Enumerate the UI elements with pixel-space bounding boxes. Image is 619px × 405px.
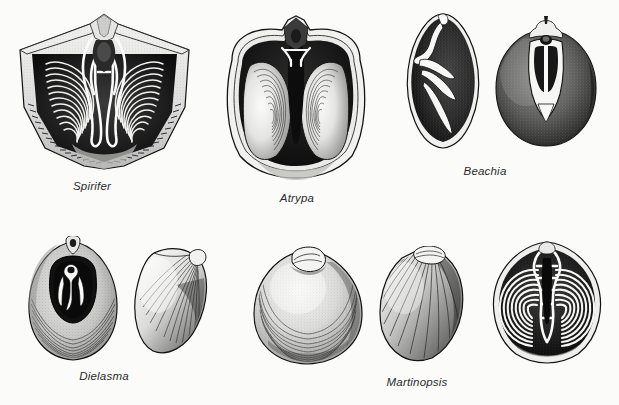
- caption-beachia: Beachia: [464, 165, 507, 177]
- specimen-dielasma-exterior: [130, 245, 216, 357]
- caption-spirifer: Spirifer: [73, 180, 111, 192]
- specimen-martinopsis-exterior-side: [374, 246, 472, 364]
- specimen-martinopsis-interior: [486, 238, 608, 366]
- specimen-atrypa-interior: [216, 14, 376, 182]
- illustration-plate: Spirifer: [0, 0, 619, 405]
- specimen-spirifer-interior: [12, 12, 197, 172]
- specimen-dielasma-interior: [24, 236, 122, 361]
- specimen-martinopsis-exterior-front: [250, 244, 368, 366]
- specimen-beachia-interior: [490, 12, 602, 152]
- specimen-beachia-section: [400, 12, 486, 152]
- caption-martinopsis: Martinopsis: [387, 376, 448, 388]
- caption-dielasma: Dielasma: [79, 370, 129, 382]
- caption-atrypa: Atrypa: [280, 192, 314, 204]
